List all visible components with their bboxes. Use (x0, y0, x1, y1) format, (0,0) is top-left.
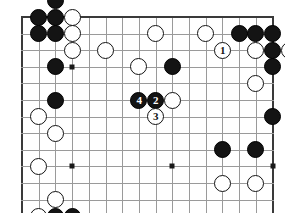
stone-black[interactable] (47, 208, 64, 213)
stone-white[interactable] (30, 158, 47, 175)
move-number-label: 3 (148, 109, 163, 124)
stone-black[interactable] (264, 108, 281, 125)
stone-white[interactable] (64, 25, 81, 42)
stone-white[interactable] (281, 42, 285, 59)
stone-white[interactable] (30, 208, 47, 213)
stone-white[interactable] (147, 25, 164, 42)
stone-black[interactable] (30, 25, 47, 42)
stone-white[interactable] (64, 9, 81, 26)
grid-line-horizontal (21, 83, 274, 84)
star-point (70, 64, 75, 69)
stone-white[interactable] (214, 175, 231, 192)
stone-black[interactable] (264, 42, 281, 59)
stone-black[interactable] (231, 25, 248, 42)
stone-white[interactable] (164, 92, 181, 109)
stone-black[interactable] (47, 25, 64, 42)
stone-black[interactable] (264, 58, 281, 75)
numbered-stone-black-2[interactable]: 2 (147, 92, 164, 109)
stone-white[interactable] (64, 42, 81, 59)
stone-black[interactable] (164, 58, 181, 75)
stone-white[interactable] (47, 125, 64, 142)
grid-line-horizontal (21, 166, 274, 167)
numbered-stone-white-3[interactable]: 3 (147, 108, 164, 125)
numbered-stone-black-4[interactable]: 4 (130, 92, 147, 109)
stone-white[interactable] (247, 75, 264, 92)
stone-black[interactable] (47, 0, 64, 9)
stone-white[interactable] (197, 25, 214, 42)
stone-white[interactable] (130, 58, 147, 75)
stone-white[interactable] (97, 42, 114, 59)
star-point (70, 164, 75, 169)
stone-black[interactable] (47, 9, 64, 26)
grid-line-horizontal (21, 50, 274, 51)
stone-black[interactable] (64, 208, 81, 213)
stone-black[interactable] (264, 25, 281, 42)
stone-black[interactable] (47, 58, 64, 75)
stone-white[interactable] (30, 108, 47, 125)
grid-line-horizontal (21, 183, 274, 184)
move-number-label: 2 (148, 93, 163, 108)
star-point (270, 164, 275, 169)
stone-white[interactable] (247, 42, 264, 59)
star-point (170, 164, 175, 169)
numbered-stone-white-1[interactable]: 1 (214, 42, 231, 59)
move-number-label: 4 (131, 93, 146, 108)
stone-black[interactable] (214, 141, 231, 158)
stone-black[interactable] (247, 141, 264, 158)
stone-white[interactable] (47, 191, 64, 208)
go-board-diagram: 1423 (0, 0, 285, 213)
grid-line-horizontal (21, 150, 274, 151)
move-number-label: 1 (215, 43, 230, 58)
stone-black[interactable] (47, 92, 64, 109)
stone-black[interactable] (30, 9, 47, 26)
stone-black[interactable] (247, 25, 264, 42)
stone-white[interactable] (247, 175, 264, 192)
